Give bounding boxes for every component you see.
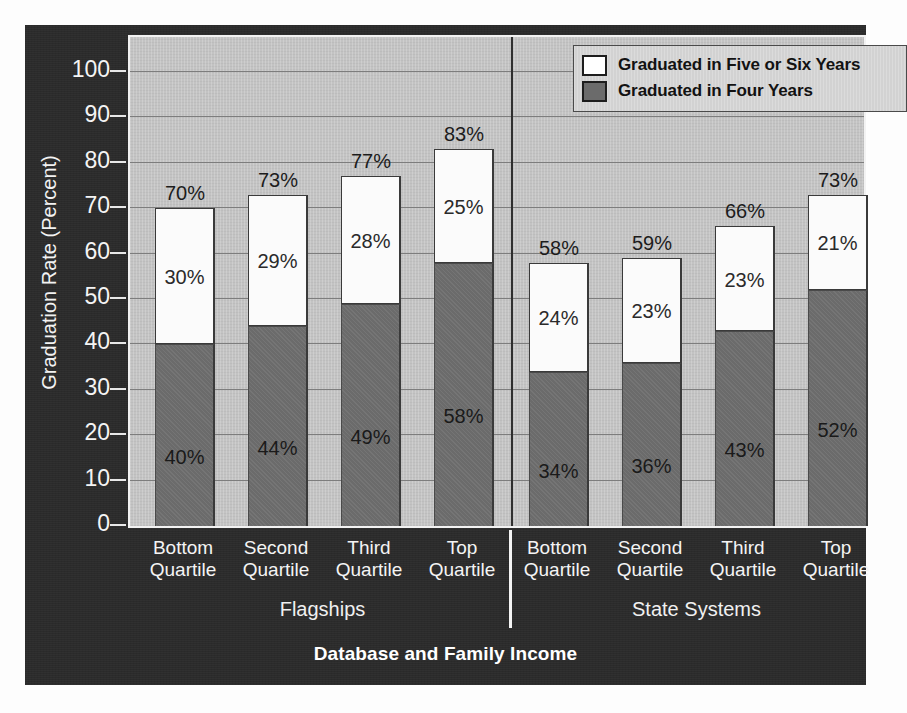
x-axis-category-line2: Quartile	[416, 559, 508, 581]
x-axis-category-label: ThirdQuartile	[697, 537, 789, 582]
stacked-bar[interactable]: 40%30%	[155, 208, 215, 526]
y-axis-tick-mark-30	[110, 388, 126, 390]
y-axis-tick-mark-0	[110, 524, 126, 526]
bar-value-label-four-years: 49%	[342, 427, 399, 447]
x-axis-category-line1: Top	[790, 537, 882, 559]
y-axis-tick-mark-20	[110, 433, 126, 435]
plot-area: 40%30%70%44%29%73%49%28%77%58%25%83%34%2…	[128, 35, 866, 528]
bar-segment-five-or-six-years[interactable]: 24%	[529, 263, 589, 372]
legend-item-five-or-six-years[interactable]: Graduated in Five or Six Years	[582, 52, 898, 78]
x-axis-category-line1: Bottom	[137, 537, 229, 559]
bar-segment-four-years[interactable]: 52%	[808, 290, 868, 526]
y-axis-tick-mark-40	[110, 342, 126, 344]
chart-figure: Graduation Rate (Percent) 10090807060504…	[25, 25, 866, 685]
bar-segment-four-years[interactable]: 58%	[434, 263, 494, 526]
legend-label: Graduated in Four Years	[618, 81, 813, 101]
y-axis-tick-label-40: 40	[40, 330, 110, 353]
group-label-state-systems: State Systems	[509, 598, 884, 621]
x-axis-category-line2: Quartile	[604, 559, 696, 581]
bar-total-label: 58%	[520, 238, 598, 258]
bar-total-label: 59%	[613, 233, 691, 253]
y-axis-tick-mark-90	[110, 115, 126, 117]
bar-value-label-four-years: 44%	[249, 438, 306, 458]
bar-segment-five-or-six-years[interactable]: 29%	[248, 195, 308, 327]
chart-legend: Graduated in Five or Six Years Graduated…	[573, 45, 907, 112]
y-axis-tick-label-50: 50	[40, 285, 110, 308]
x-axis-category-label: BottomQuartile	[137, 537, 229, 582]
bar-value-label-four-years: 40%	[156, 447, 213, 467]
y-axis-tick-label-90: 90	[40, 103, 110, 126]
bar-total-label: 73%	[799, 170, 877, 190]
y-axis-tick-mark-70	[110, 206, 126, 208]
bar-total-label: 70%	[146, 183, 224, 203]
x-axis-category-line2: Quartile	[790, 559, 882, 581]
bar-segment-four-years[interactable]: 36%	[622, 363, 682, 526]
bar-segment-four-years[interactable]: 49%	[341, 304, 401, 526]
bar-segment-five-or-six-years[interactable]: 25%	[434, 149, 494, 263]
y-axis-tick-label-10: 10	[40, 467, 110, 490]
x-axis-category-label: TopQuartile	[790, 537, 882, 582]
stacked-bar[interactable]: 58%25%	[434, 149, 494, 526]
y-axis-tick-mark-80	[110, 161, 126, 163]
bar-total-label: 73%	[239, 170, 317, 190]
x-axis-category-line1: Top	[416, 537, 508, 559]
x-axis-category-line2: Quartile	[511, 559, 603, 581]
bar-total-label: 83%	[425, 124, 503, 144]
y-axis-tick-label-70: 70	[40, 194, 110, 217]
bar-segment-five-or-six-years[interactable]: 23%	[622, 258, 682, 362]
bar-total-label: 66%	[706, 201, 784, 221]
bar-segment-four-years[interactable]: 43%	[715, 331, 775, 526]
x-axis-title: Database and Family Income	[25, 643, 866, 665]
bar-value-label-five-or-six-years: 24%	[530, 308, 587, 328]
legend-item-four-years[interactable]: Graduated in Four Years	[582, 78, 898, 104]
bar-value-label-four-years: 58%	[435, 406, 492, 426]
x-axis-category-line1: Third	[323, 537, 415, 559]
bar-segment-five-or-six-years[interactable]: 30%	[155, 208, 215, 344]
group-divider-line	[511, 37, 513, 526]
bar-segment-four-years[interactable]: 44%	[248, 326, 308, 526]
y-axis-tick-label-20: 20	[40, 421, 110, 444]
x-axis-category-label: BottomQuartile	[511, 537, 603, 582]
bar-segment-five-or-six-years[interactable]: 28%	[341, 176, 401, 303]
x-axis-category-line1: Third	[697, 537, 789, 559]
y-axis-tick-label-60: 60	[40, 240, 110, 263]
y-axis-tick-label-80: 80	[40, 149, 110, 172]
bar-value-label-five-or-six-years: 25%	[435, 197, 492, 217]
gridline-80	[130, 162, 864, 163]
stacked-bar[interactable]: 44%29%	[248, 195, 308, 526]
legend-swatch-white-icon	[582, 55, 607, 76]
bar-value-label-four-years: 34%	[530, 461, 587, 481]
bar-segment-five-or-six-years[interactable]: 23%	[715, 226, 775, 330]
x-axis-category-line1: Second	[604, 537, 696, 559]
x-axis-category-label: TopQuartile	[416, 537, 508, 582]
bar-segment-five-or-six-years[interactable]: 21%	[808, 195, 868, 290]
bar-value-label-five-or-six-years: 21%	[809, 233, 866, 253]
bar-value-label-four-years: 36%	[623, 456, 680, 476]
legend-swatch-gray-icon	[582, 81, 607, 102]
y-axis-tick-mark-10	[110, 479, 126, 481]
bar-segment-four-years[interactable]: 40%	[155, 344, 215, 526]
y-axis-tick-mark-60	[110, 252, 126, 254]
group-divider-label-line	[509, 530, 512, 628]
x-axis-category-line2: Quartile	[323, 559, 415, 581]
x-axis-category-line1: Bottom	[511, 537, 603, 559]
stacked-bar[interactable]: 34%24%	[529, 263, 589, 526]
x-axis-category-label: ThirdQuartile	[323, 537, 415, 582]
bar-total-label: 77%	[332, 151, 410, 171]
y-axis-tick-mark-50	[110, 297, 126, 299]
x-axis-category-line2: Quartile	[137, 559, 229, 581]
bar-value-label-five-or-six-years: 30%	[156, 267, 213, 287]
stacked-bar[interactable]: 43%23%	[715, 226, 775, 526]
bar-value-label-four-years: 43%	[716, 440, 773, 460]
x-axis-category-label: SecondQuartile	[604, 537, 696, 582]
bar-value-label-five-or-six-years: 23%	[716, 270, 773, 290]
stacked-bar[interactable]: 49%28%	[341, 176, 401, 526]
bar-value-label-five-or-six-years: 28%	[342, 231, 399, 251]
y-axis-tick-mark-100	[110, 70, 126, 72]
bar-value-label-five-or-six-years: 23%	[623, 301, 680, 321]
stacked-bar[interactable]: 36%23%	[622, 258, 682, 526]
y-axis-tick-label-100: 100	[40, 58, 110, 81]
bar-segment-four-years[interactable]: 34%	[529, 372, 589, 526]
bar-value-label-five-or-six-years: 29%	[249, 251, 306, 271]
stacked-bar[interactable]: 52%21%	[808, 195, 868, 526]
